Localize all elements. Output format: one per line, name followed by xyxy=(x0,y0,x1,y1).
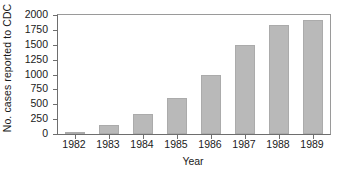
y-axis-tick-mark xyxy=(53,134,58,135)
y-axis-tick-label: 0 xyxy=(42,127,48,139)
y-axis-title: No. cases reported to CDC xyxy=(0,0,14,136)
y-axis-tick-label: 1500 xyxy=(25,38,48,50)
bar xyxy=(99,125,119,134)
bar-series xyxy=(58,15,330,134)
y-axis-tick-label: 2000 xyxy=(25,8,48,20)
bar xyxy=(269,25,289,134)
x-axis-tick-labels: 19821983198419851986198719881989 xyxy=(57,138,329,152)
bar xyxy=(201,75,221,134)
y-axis-tick-mark xyxy=(53,119,58,120)
x-axis-tick-label: 1986 xyxy=(193,138,227,152)
x-axis-title: Year xyxy=(57,155,329,167)
y-axis-tick-mark xyxy=(53,75,58,76)
bar-slot xyxy=(194,15,228,134)
y-axis-tick-mark xyxy=(53,60,58,61)
y-axis-tick-mark xyxy=(53,104,58,105)
y-axis-tick-mark xyxy=(53,45,58,46)
x-axis-tick-label: 1989 xyxy=(295,138,329,152)
bar-slot xyxy=(126,15,160,134)
y-axis-tick-label: 250 xyxy=(30,112,48,124)
bar-slot xyxy=(262,15,296,134)
bar xyxy=(167,98,187,134)
y-axis-tick-label: 1750 xyxy=(25,23,48,35)
x-axis-tick-label: 1985 xyxy=(159,138,193,152)
bar-slot xyxy=(58,15,92,134)
y-axis-title-text: No. cases reported to CDC xyxy=(1,4,13,133)
bar-slot xyxy=(92,15,126,134)
y-axis-tick-label: 1000 xyxy=(25,68,48,80)
y-axis-tick-label: 500 xyxy=(30,97,48,109)
x-axis-tick-label: 1983 xyxy=(91,138,125,152)
plot-area xyxy=(57,14,331,135)
bar-chart: No. cases reported to CDC 02505007501000… xyxy=(0,0,340,175)
y-axis-tick-mark xyxy=(53,89,58,90)
x-axis-tick-label: 1988 xyxy=(261,138,295,152)
bar-slot xyxy=(228,15,262,134)
bar xyxy=(303,20,323,134)
x-axis-tick-label: 1984 xyxy=(125,138,159,152)
bar-slot xyxy=(296,15,330,134)
y-axis-tick-label: 750 xyxy=(30,82,48,94)
bar-slot xyxy=(160,15,194,134)
x-axis-tick-label: 1987 xyxy=(227,138,261,152)
bar xyxy=(133,114,153,134)
y-axis-tick-mark xyxy=(53,30,58,31)
x-axis-tick-label: 1982 xyxy=(57,138,91,152)
y-axis-tick-labels: 025050075010001250150017502000 xyxy=(14,8,50,136)
y-axis-tick-label: 1250 xyxy=(25,53,48,65)
bar xyxy=(235,45,255,134)
y-axis-tick-mark xyxy=(53,15,58,16)
